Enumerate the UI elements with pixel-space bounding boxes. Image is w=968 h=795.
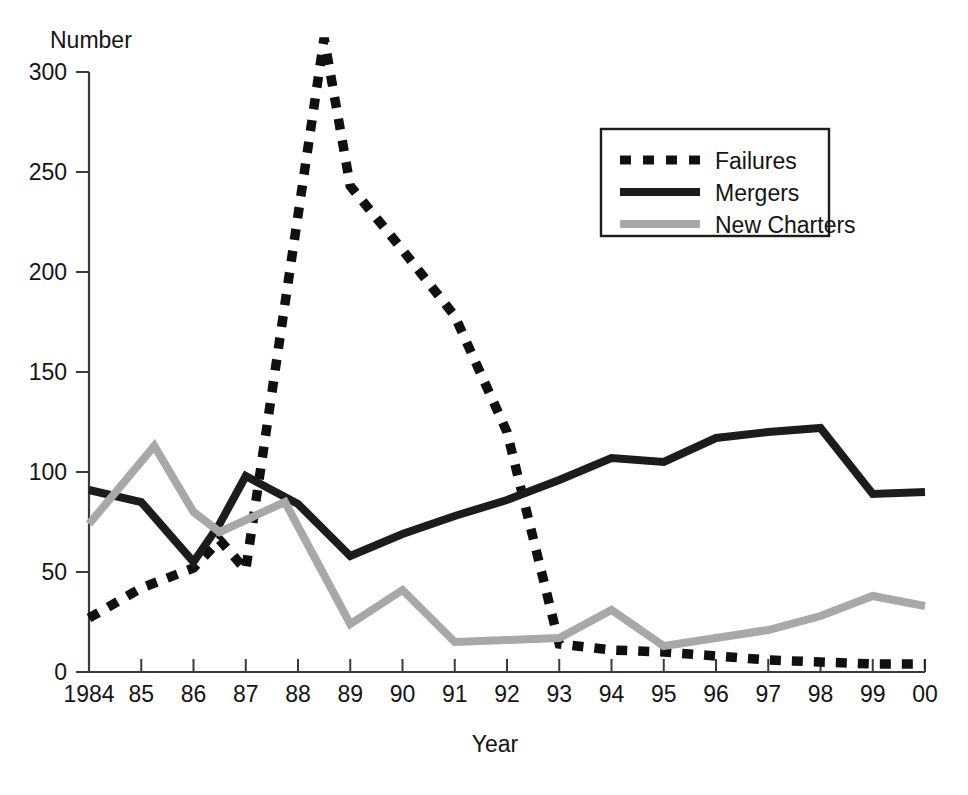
y-tick-label: 50 — [41, 559, 67, 585]
x-tick-label: 94 — [599, 681, 625, 707]
x-tick-label: 99 — [860, 681, 886, 707]
x-tick-label: 92 — [494, 681, 520, 707]
x-tick-label: 95 — [651, 681, 677, 707]
legend-label: New Charters — [715, 212, 856, 238]
x-tick-label: 85 — [128, 681, 154, 707]
y-tick-label: 250 — [29, 159, 67, 185]
line-chart: Number 050100150200250300 19848586878889… — [0, 0, 968, 795]
x-axis-title: Year — [472, 731, 519, 757]
y-tick-label: 100 — [29, 459, 67, 485]
x-tick-label: 87 — [233, 681, 259, 707]
x-tick-label: 88 — [285, 681, 311, 707]
x-axis-ticks: 198485868788899091929394959697989900 — [63, 659, 937, 707]
x-tick-label: 97 — [755, 681, 781, 707]
x-tick-label: 96 — [703, 681, 729, 707]
chart-legend: FailuresMergersNew Charters — [601, 129, 856, 238]
y-tick-label: 150 — [29, 359, 67, 385]
x-tick-label: 1984 — [63, 681, 114, 707]
series-line-new-charters — [89, 446, 925, 646]
x-tick-label: 93 — [546, 681, 572, 707]
x-tick-label: 91 — [442, 681, 468, 707]
y-axis-title: Number — [50, 27, 132, 53]
x-tick-label: 89 — [337, 681, 363, 707]
legend-label: Failures — [715, 148, 797, 174]
y-tick-label: 300 — [29, 59, 67, 85]
y-tick-label: 200 — [29, 259, 67, 285]
x-tick-label: 98 — [808, 681, 834, 707]
legend-label: Mergers — [715, 180, 799, 206]
y-axis-ticks: 050100150200250300 — [29, 59, 89, 685]
x-tick-label: 00 — [912, 681, 938, 707]
x-tick-label: 90 — [390, 681, 416, 707]
chart-container: Number 050100150200250300 19848586878889… — [0, 0, 968, 795]
x-tick-label: 86 — [181, 681, 207, 707]
